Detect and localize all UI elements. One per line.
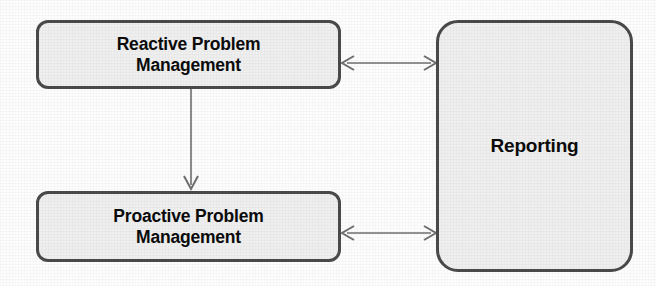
connector-reactive-to-proactive[interactable] [178,87,204,193]
node-reporting-label-line1: Reporting [491,135,579,156]
node-reporting[interactable]: Reporting [436,20,633,272]
node-reactive-label-line1: Reactive Problem [117,34,261,54]
double-headed-arrow-icon [338,50,440,76]
diagram-canvas: Reactive Problem Management Proactive Pr… [0,0,656,286]
connector-proactive-to-reporting[interactable] [338,220,440,246]
node-reactive-label: Reactive Problem Management [117,34,261,75]
node-proactive-problem-management[interactable]: Proactive Problem Management [36,191,341,262]
node-reactive-label-line2: Management [136,55,241,75]
connector-reactive-to-reporting[interactable] [338,50,440,76]
node-proactive-label-line1: Proactive Problem [113,206,263,226]
double-headed-arrow-icon [338,220,440,246]
node-proactive-label-line2: Management [136,227,241,247]
node-proactive-label: Proactive Problem Management [113,206,263,247]
down-arrow-icon [178,87,204,193]
node-reactive-problem-management[interactable]: Reactive Problem Management [36,20,341,89]
node-reporting-label: Reporting [491,135,579,157]
